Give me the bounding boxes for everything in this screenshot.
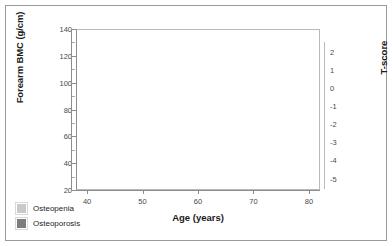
y-axis-tick-label: 20 (38, 186, 72, 195)
chart-figure: Forearm BMC (g/cm) T-score Age (years) 2… (0, 0, 392, 246)
y-axis-tick-label: 60 (38, 132, 72, 141)
chart-legend: OsteopeniaOsteoporosis (16, 201, 80, 231)
x-axis-spine (76, 190, 320, 191)
y-axis-minor-tick-mark (72, 69, 75, 70)
x-axis-ticks: 4050607080 (76, 190, 320, 212)
y2-axis-ticks: 210-1-2-3-4-5 (322, 29, 358, 190)
chart-canvas (76, 29, 320, 190)
y-axis-minor-tick-mark (72, 42, 75, 43)
y2-axis-spine (324, 42, 325, 189)
y-axis-tick-label: 40 (38, 159, 72, 168)
x-axis-tick-label: 70 (249, 197, 257, 206)
x-axis-tick-label: 80 (305, 197, 313, 206)
y2-axis-tick-label: 1 (330, 65, 334, 74)
y-axis-minor-tick-mark (72, 123, 75, 124)
x-axis-title: Age (years) (76, 212, 320, 223)
y2-axis-tick-label: -2 (330, 120, 337, 129)
legend-item: Osteopenia (16, 201, 80, 216)
y2-axis-tick-label: -4 (330, 156, 337, 165)
legend-label: Osteoporosis (33, 219, 80, 228)
x-axis-tick-label: 40 (83, 197, 91, 206)
y-axis-tick-label: 140 (38, 25, 72, 34)
y2-axis-tick-label: -5 (330, 174, 337, 183)
y-axis-minor-tick-mark (72, 177, 75, 178)
y-axis-tick-label: 120 (38, 51, 72, 60)
y-axis-title: Forearm BMC (g/cm) (14, 0, 25, 123)
legend-item: Osteoporosis (16, 216, 80, 231)
legend-label: Osteopenia (33, 204, 74, 213)
y-axis-spine (71, 29, 72, 190)
y-axis-tick-label: 100 (38, 78, 72, 87)
legend-swatch (16, 203, 27, 214)
y-axis-minor-tick-mark (72, 150, 75, 151)
y-axis-ticks: 20406080100120140 (34, 29, 72, 190)
y2-axis-tick-label: -3 (330, 138, 337, 147)
y2-axis-tick-label: 0 (330, 84, 334, 93)
y2-axis-tick-label: -1 (330, 102, 337, 111)
y2-axis-tick-label: 2 (330, 47, 334, 56)
plot-area (76, 29, 320, 190)
y-axis-minor-tick-mark (72, 96, 75, 97)
y2-axis-title: T-score (378, 0, 389, 123)
y-axis-tick-label: 80 (38, 105, 72, 114)
x-axis-tick-label: 50 (138, 197, 146, 206)
x-axis-tick-label: 60 (194, 197, 202, 206)
legend-swatch (16, 218, 27, 229)
